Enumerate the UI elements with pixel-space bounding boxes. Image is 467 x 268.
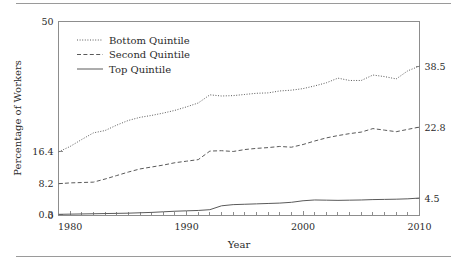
series-line-second-quintile <box>59 127 420 184</box>
data-series-group <box>59 66 420 214</box>
line-chart: 1980199020002010 5016.48.20.30 38.522.84… <box>0 0 467 268</box>
y-axis-right-tick-labels: 38.522.84.5 <box>425 61 446 204</box>
y-right-tick-label: 22.8 <box>425 122 446 133</box>
x-axis-tick-labels: 1980199020002010 <box>58 221 432 232</box>
y-right-tick-label: 38.5 <box>425 61 446 72</box>
x-tick-label: 1990 <box>175 221 199 232</box>
legend-label: Bottom Quintile <box>109 35 190 46</box>
x-axis-title: Year <box>227 239 251 250</box>
y-axis-left-tick-labels: 5016.48.20.30 <box>32 16 53 221</box>
y-axis-right-ticks <box>416 66 420 198</box>
x-tick-label: 2010 <box>407 221 431 232</box>
x-tick-label: 1980 <box>58 221 82 232</box>
figure-container: 1980199020002010 5016.48.20.30 38.522.84… <box>0 0 467 268</box>
legend-label: Top Quintile <box>109 64 171 75</box>
legend-label: Second Quintile <box>109 49 190 60</box>
y-left-tick-label: 0 <box>47 210 53 221</box>
y-left-tick-label: 50 <box>41 16 53 27</box>
series-line-bottom-quintile <box>59 66 420 152</box>
series-line-top-quintile <box>59 198 420 214</box>
y-left-tick-label: 16.4 <box>32 146 53 157</box>
chart-legend: Bottom QuintileSecond QuintileTop Quinti… <box>77 35 190 75</box>
y-right-tick-label: 4.5 <box>425 193 440 204</box>
y-axis-title: Percentage of Workers <box>12 60 23 176</box>
y-left-tick-label: 8.2 <box>38 178 53 189</box>
x-tick-label: 2000 <box>291 221 315 232</box>
